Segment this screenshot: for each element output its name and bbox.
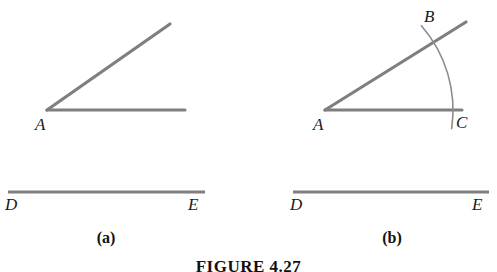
figure-page: A D E (a) A B C D E (b) FIGURE 4.27 — [0, 0, 497, 272]
panel-a-upper-ray — [47, 24, 170, 110]
panel-a-point-label-d: D — [5, 196, 17, 213]
figure-caption: FIGURE 4.27 — [0, 258, 497, 272]
panel-a-part-label: (a) — [85, 230, 127, 246]
panel-a-point-label-e: E — [188, 196, 198, 213]
panel-b-point-label-c: C — [456, 114, 467, 131]
panel-b-point-label-e: E — [472, 196, 482, 213]
panel-a-vertex-label-a: A — [35, 116, 45, 133]
panel-b-point-label-d: D — [290, 196, 302, 213]
panel-b-point-label-b: B — [424, 8, 434, 25]
panel-b-vertex-label-a: A — [313, 116, 323, 133]
geometry-canvas — [0, 0, 497, 272]
panel-b-part-label: (b) — [371, 230, 413, 246]
